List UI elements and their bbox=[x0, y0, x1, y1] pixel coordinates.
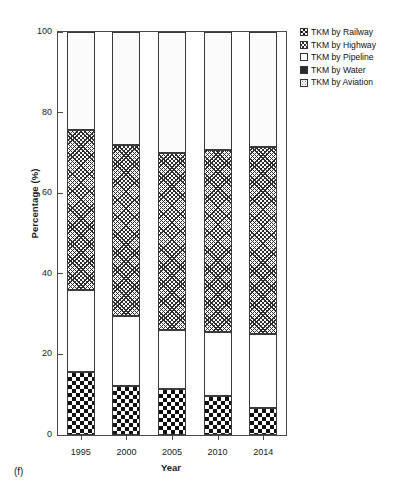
x-axis-tick-label: 2005 bbox=[149, 448, 195, 457]
y-axis-tick-mark bbox=[58, 193, 63, 194]
bar-segment-tkm-by-pipeline bbox=[204, 332, 232, 396]
legend-swatch-icon bbox=[300, 66, 308, 74]
bar-2010 bbox=[204, 32, 232, 435]
x-axis-tick-label: 2010 bbox=[195, 448, 241, 457]
bar-2000 bbox=[112, 32, 140, 435]
bar-segment-tkm-by-highway bbox=[204, 150, 232, 332]
legend-item: TKM by Water bbox=[300, 64, 408, 77]
y-axis-tick-label: 0 bbox=[22, 430, 52, 439]
bar-segment-tkm-by-railway bbox=[67, 372, 95, 435]
y-axis-tick-mark bbox=[58, 32, 63, 33]
legend-label: TKM by Railway bbox=[311, 28, 373, 37]
legend-label: TKM by Aviation bbox=[311, 78, 373, 87]
x-axis-tick-label: 1995 bbox=[58, 448, 104, 457]
x-axis-tick-mark bbox=[126, 435, 127, 440]
bar-segment-tkm-by-pipeline bbox=[158, 330, 186, 389]
bar-segment-tkm-by-aviation bbox=[249, 32, 277, 147]
bar-segment-tkm-by-pipeline bbox=[112, 316, 140, 386]
bar-segment-tkm-by-highway bbox=[67, 130, 95, 290]
bar-segment-tkm-by-railway bbox=[204, 396, 232, 435]
bar-segment-tkm-by-pipeline bbox=[249, 334, 277, 408]
y-axis-tick-label: 100 bbox=[22, 27, 52, 36]
bar-segment-tkm-by-railway bbox=[158, 389, 186, 435]
panel-caption: (f) bbox=[14, 466, 23, 477]
bar-segment-tkm-by-railway bbox=[112, 386, 140, 435]
bar-segment-tkm-by-pipeline bbox=[67, 290, 95, 372]
legend: TKM by RailwayTKM by HighwayTKM by Pipel… bbox=[300, 26, 408, 89]
plot-area: 02040608010019952000200520102014 bbox=[57, 31, 287, 436]
y-axis-tick-mark bbox=[58, 273, 63, 274]
legend-label: TKM by Highway bbox=[311, 41, 376, 50]
y-axis-tick-mark bbox=[58, 354, 63, 355]
bar-2014 bbox=[249, 32, 277, 435]
legend-item: TKM by Railway bbox=[300, 26, 408, 39]
x-axis-tick-mark bbox=[172, 435, 173, 440]
x-axis-tick-label: 2000 bbox=[103, 448, 149, 457]
bar-segment-tkm-by-highway bbox=[158, 153, 186, 330]
y-axis-tick-label: 40 bbox=[22, 269, 52, 278]
y-axis-tick-mark bbox=[58, 112, 63, 113]
legend-swatch-icon bbox=[300, 79, 308, 87]
x-axis-title: Year bbox=[57, 462, 285, 473]
y-axis-tick-label: 60 bbox=[22, 188, 52, 197]
legend-swatch-icon bbox=[300, 28, 308, 36]
y-axis-tick-label: 20 bbox=[22, 349, 52, 358]
bar-segment-tkm-by-highway bbox=[249, 147, 277, 334]
figure-panel: Percentage (%) 0204060801001995200020052… bbox=[0, 0, 409, 487]
legend-label: TKM by Water bbox=[311, 66, 366, 75]
bar-segment-tkm-by-highway bbox=[112, 145, 140, 316]
bar-segment-tkm-by-railway bbox=[249, 408, 277, 435]
x-axis-tick-label: 2014 bbox=[240, 448, 286, 457]
legend-item: TKM by Highway bbox=[300, 39, 408, 52]
x-axis-tick-mark bbox=[218, 435, 219, 440]
bar-segment-tkm-by-aviation bbox=[67, 32, 95, 130]
y-axis-tick-mark bbox=[58, 435, 63, 436]
legend-item: TKM by Aviation bbox=[300, 76, 408, 89]
legend-swatch-icon bbox=[300, 53, 308, 61]
y-axis-tick-label: 80 bbox=[22, 108, 52, 117]
bar-1995 bbox=[67, 32, 95, 435]
bar-segment-tkm-by-aviation bbox=[112, 32, 140, 145]
bar-segment-tkm-by-aviation bbox=[204, 32, 232, 150]
bar-2005 bbox=[158, 32, 186, 435]
legend-label: TKM by Pipeline bbox=[311, 53, 374, 62]
legend-swatch-icon bbox=[300, 41, 308, 49]
x-axis-tick-mark bbox=[81, 435, 82, 440]
x-axis-tick-mark bbox=[263, 435, 264, 440]
y-axis-title: Percentage (%) bbox=[29, 134, 40, 274]
bar-segment-tkm-by-aviation bbox=[158, 32, 186, 153]
legend-item: TKM by Pipeline bbox=[300, 51, 408, 64]
